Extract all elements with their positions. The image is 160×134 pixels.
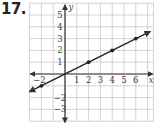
data-point	[110, 49, 114, 53]
x-axis-label: x	[149, 75, 154, 85]
data-point	[134, 37, 138, 41]
x-tick-label: −2	[33, 75, 46, 85]
x-tick-label: 3	[98, 75, 103, 85]
y-tick-label: 1	[57, 57, 62, 67]
x-tick-label: 6	[133, 75, 138, 85]
data-point	[40, 84, 44, 88]
y-tick-label: 3	[57, 34, 62, 44]
y-tick-label: 5	[57, 10, 62, 20]
x-tick-label: 1	[74, 75, 79, 85]
y-tick-label: −2	[54, 93, 67, 103]
grid-lines	[30, 3, 154, 121]
x-tick-label: 4	[109, 75, 114, 85]
y-axis-label: y	[68, 2, 74, 12]
y-tick-label: 4	[57, 22, 62, 32]
y-tick-label: −3	[54, 104, 67, 114]
data-point	[87, 60, 91, 64]
x-tick-label: 5	[121, 75, 126, 85]
coordinate-plane: −212345654321−2−3xy	[0, 0, 160, 134]
x-tick-label: 2	[86, 75, 91, 85]
axes	[31, 5, 153, 122]
y-tick-label: 2	[57, 45, 62, 55]
